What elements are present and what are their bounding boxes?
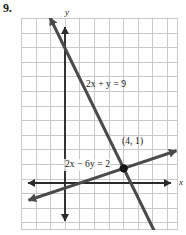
intersection-point-marker xyxy=(120,164,128,172)
plotted-lines xyxy=(21,18,178,230)
math-figure: 9. xyxy=(0,0,186,235)
coordinate-graph xyxy=(21,18,178,230)
x-axis-label: x xyxy=(179,178,183,187)
line-2x-plus-y-equals-9 xyxy=(50,18,164,230)
problem-number: 9. xyxy=(3,2,12,14)
y-axis-label: y xyxy=(65,8,69,17)
equation-label-1: 2x + y = 9 xyxy=(86,80,126,90)
equation-label-2: 2x − 6y = 2 xyxy=(64,159,110,171)
intersection-point-label: (4, 1) xyxy=(122,137,143,147)
